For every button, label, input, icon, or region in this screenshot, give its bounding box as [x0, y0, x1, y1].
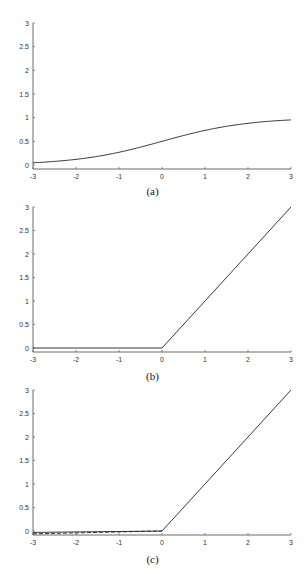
- x-tick-label: 2: [246, 539, 250, 546]
- y-tick-label: 0: [25, 528, 29, 535]
- chart-a-plot: 00.511.522.53-3-2-10123: [0, 0, 305, 185]
- y-tick-label: 0.5: [19, 504, 29, 511]
- y-tick-label: 1.5: [19, 274, 29, 281]
- x-tick-label: 0: [160, 539, 164, 546]
- x-tick-label: -3: [30, 539, 36, 546]
- x-tick-label: 2: [246, 173, 250, 180]
- y-tick-label: 0.5: [19, 138, 29, 145]
- y-tick-label: 0.5: [19, 321, 29, 328]
- x-tick-label: 1: [203, 356, 207, 363]
- y-tick-label: 1: [25, 481, 29, 488]
- series-relu: [33, 207, 291, 348]
- x-tick-label: -2: [73, 356, 79, 363]
- chart-c-plot: 00.511.522.53-3-2-10123: [0, 368, 305, 551]
- x-tick-label: 2: [246, 356, 250, 363]
- y-tick-label: 3: [25, 387, 29, 394]
- x-tick-label: 1: [203, 539, 207, 546]
- series-sigmoid: [33, 120, 291, 163]
- x-tick-label: 3: [289, 356, 293, 363]
- y-tick-label: 1: [25, 114, 29, 121]
- y-tick-label: 3: [25, 20, 29, 27]
- y-tick-label: 0: [25, 345, 29, 352]
- y-tick-label: 1.5: [19, 91, 29, 98]
- y-tick-label: 2.5: [19, 227, 29, 234]
- series-leaky-relu: [33, 390, 291, 532]
- x-tick-label: -1: [116, 539, 122, 546]
- x-tick-label: 0: [160, 356, 164, 363]
- y-tick-label: 1: [25, 298, 29, 305]
- caption-c: (c): [0, 553, 305, 565]
- y-tick-label: 0: [25, 162, 29, 169]
- chart-panel-c: 00.511.522.53-3-2-10123 (c): [0, 368, 305, 581]
- y-tick-label: 2: [25, 251, 29, 258]
- x-tick-label: 1: [203, 173, 207, 180]
- y-tick-label: 2.5: [19, 410, 29, 417]
- x-tick-label: -1: [116, 356, 122, 363]
- chart-b-plot: 00.511.522.53-3-2-10123: [0, 185, 305, 368]
- x-tick-label: 0: [160, 173, 164, 180]
- x-tick-label: -2: [73, 539, 79, 546]
- x-tick-label: 3: [289, 173, 293, 180]
- y-tick-label: 2: [25, 434, 29, 441]
- y-tick-label: 3: [25, 204, 29, 211]
- x-tick-label: 3: [289, 539, 293, 546]
- x-tick-label: -3: [30, 173, 36, 180]
- chart-panel-b: 00.511.522.53-3-2-10123 (b): [0, 185, 305, 380]
- x-tick-label: -3: [30, 356, 36, 363]
- y-tick-label: 1.5: [19, 457, 29, 464]
- y-tick-label: 2: [25, 67, 29, 74]
- chart-panel-a: 00.511.522.53-3-2-10123 (a): [0, 0, 305, 195]
- x-tick-label: -2: [73, 173, 79, 180]
- x-tick-label: -1: [116, 173, 122, 180]
- y-tick-label: 2.5: [19, 43, 29, 50]
